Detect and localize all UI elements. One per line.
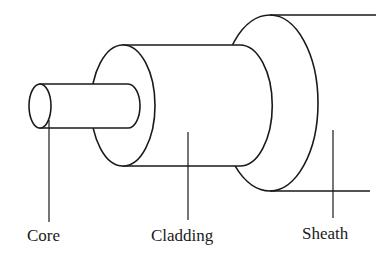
sheath-label: Sheath — [302, 224, 348, 244]
core-label: Core — [27, 226, 60, 246]
core-shape — [29, 84, 140, 128]
cladding-label: Cladding — [151, 226, 213, 246]
fiber-diagram — [0, 0, 386, 260]
